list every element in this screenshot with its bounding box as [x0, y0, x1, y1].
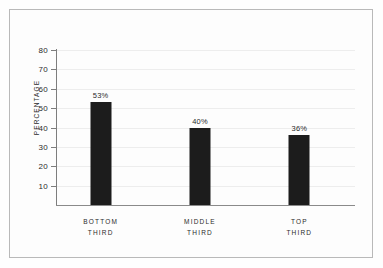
bar-value-label: 40%: [180, 117, 220, 126]
y-axis-tick-mark: [51, 128, 56, 129]
y-axis-tick-label: 50: [14, 104, 48, 113]
y-axis-tick-mark: [51, 89, 56, 90]
category-label: TOPTHIRD: [254, 216, 344, 238]
gridline: [57, 89, 355, 90]
y-axis-tick-label: 80: [14, 46, 48, 55]
bar: [90, 102, 111, 205]
x-axis-spine: [56, 205, 355, 206]
y-axis-tick-label: 20: [14, 162, 48, 171]
y-axis-tick-mark: [51, 108, 56, 109]
category-label-line: MIDDLE: [155, 216, 245, 227]
y-axis-tick-mark: [51, 186, 56, 187]
y-axis-tick-label: 30: [14, 142, 48, 151]
category-label-line: THIRD: [56, 227, 146, 238]
y-axis-tick-label: 60: [14, 84, 48, 93]
bar-value-label: 53%: [81, 91, 121, 100]
gridline: [57, 50, 355, 51]
y-axis-tick-labels: 1020304050607080: [8, 0, 48, 268]
category-label-line: BOTTOM: [56, 216, 146, 227]
y-axis-tick-mark: [51, 166, 56, 167]
y-axis-tick-mark: [51, 69, 56, 70]
category-label: BOTTOMTHIRD: [56, 216, 146, 238]
y-axis-tick-label: 10: [14, 181, 48, 190]
y-axis-tick-mark: [51, 50, 56, 51]
gridline: [57, 69, 355, 70]
y-axis-tick-mark: [51, 147, 56, 148]
category-label: MIDDLETHIRD: [155, 216, 245, 238]
bar-value-label: 36%: [279, 124, 319, 133]
plot-area: 53%40%36%: [57, 50, 355, 205]
chart-figure: PERCENTAGE 1020304050607080 53%40%36% BO…: [0, 0, 383, 268]
category-label-line: TOP: [254, 216, 344, 227]
bar: [190, 128, 211, 206]
y-axis-tick-label: 40: [14, 123, 48, 132]
y-axis-tick-label: 70: [14, 65, 48, 74]
bar: [289, 135, 310, 205]
category-label-line: THIRD: [254, 227, 344, 238]
category-label-line: THIRD: [155, 227, 245, 238]
